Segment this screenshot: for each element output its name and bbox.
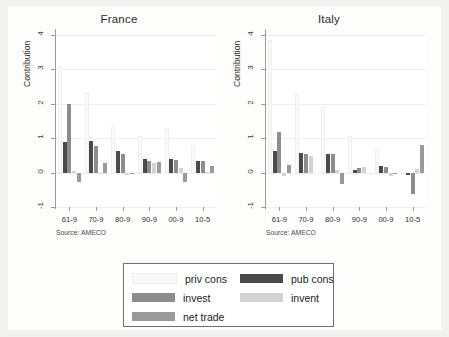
legend-label: pub cons [291,273,334,285]
x-axis-tick [359,207,360,211]
y-axis-tick-label: 3 [246,60,255,76]
legend-grid: priv consinvestnet tradepub consinvent [130,269,327,321]
bar-priv-cons-70-9 [85,92,89,173]
y-gridline [266,138,426,139]
bar-priv-cons-70-9 [295,94,299,172]
x-axis-tick [69,207,70,211]
bar-invest-61-9 [277,132,281,173]
bar-invest-10-5 [201,161,205,173]
y-gridline [56,138,216,139]
bar-invent-10-5 [205,172,209,173]
legend-label: invent [291,292,319,304]
y-axis-tick [51,207,55,208]
y-axis-tick [51,35,55,36]
plot-background [266,35,426,207]
x-axis-tick [149,207,150,211]
panel-title-italy: Italy [224,13,434,25]
y-axis-tick-label: 2 [36,94,45,110]
bar-pub-cons-70-9 [299,153,303,173]
x-axis-tick-label: 10-5 [396,215,430,224]
bar-priv-cons-10-5 [191,146,195,172]
bar-pub-cons-70-9 [89,141,93,173]
bar-invent-80-9 [125,173,129,175]
x-axis-tick [306,207,307,211]
y-axis-tick [261,138,265,139]
bar-priv-cons-80-9 [321,107,325,173]
panel-title-france: France [14,13,224,25]
bar-net-trade-00-9 [393,173,397,174]
y-axis-tick-label: 4 [246,26,255,42]
bar-pub-cons-61-9 [63,142,67,172]
bar-invent-61-9 [72,171,76,172]
x-axis-tick [279,207,280,211]
legend-swatch-icon [132,312,175,321]
bar-invest-90-9 [357,168,361,172]
bar-invest-00-9 [384,167,388,173]
bar-invent-10-5 [415,169,419,173]
bar-priv-cons-90-9 [348,136,352,172]
legend-label: invest [183,292,210,304]
legend-item-pub-cons: pub cons [240,271,334,286]
y-gridline [266,35,426,36]
bar-priv-cons-10-5 [401,172,405,174]
legend-item-priv-cons: priv cons [132,271,227,286]
y-gridline [56,104,216,105]
y-axis-tick-label: 0 [246,163,255,179]
bar-pub-cons-90-9 [353,170,357,173]
bar-invest-70-9 [94,146,98,172]
x-axis-tick-label: 10-5 [186,215,220,224]
bar-net-trade-61-9 [287,165,291,172]
source-note-france: Source: AMECO [56,229,106,236]
panel-italy: Italy Contribution 43210-161-970-980-990… [224,7,434,252]
y-axis-tick [261,207,265,208]
bar-net-trade-80-9 [130,173,134,175]
bar-pub-cons-90-9 [143,159,147,172]
bar-invent-70-9 [309,156,313,172]
y-gridline [266,104,426,105]
panel-france: France Contribution 43210-161-970-980-99… [14,7,224,252]
bar-pub-cons-00-9 [169,159,173,173]
y-axis-label-italy: Contribution [232,41,242,87]
y-axis-tick-label: -1 [36,198,45,214]
x-axis-tick [176,207,177,211]
panels-container: France Contribution 43210-161-970-980-99… [8,7,441,252]
bar-net-trade-00-9 [183,173,187,182]
bar-pub-cons-00-9 [379,166,383,172]
y-axis-tick [261,104,265,105]
bar-invest-61-9 [67,104,71,172]
bar-pub-cons-10-5 [406,173,410,175]
source-note-italy: Source: AMECO [266,229,316,236]
x-axis-tick [413,207,414,211]
bar-invest-80-9 [121,154,125,173]
bar-priv-cons-00-9 [165,128,169,173]
y-axis-tick [51,138,55,139]
bar-net-trade-90-9 [157,162,161,173]
y-axis-line [55,29,56,209]
bar-invent-90-9 [362,167,366,172]
chart-legend: priv consinvestnet tradepub consinvent [123,263,334,327]
bar-invest-10-5 [411,173,415,194]
bar-net-trade-10-5 [210,166,214,172]
bar-invest-70-9 [304,154,308,173]
legend-item-invest: invest [132,290,210,305]
bar-net-trade-61-9 [77,173,81,182]
bar-pub-cons-80-9 [326,154,330,172]
y-axis-tick-label: 1 [36,129,45,145]
bar-priv-cons-61-9 [268,40,272,172]
bar-priv-cons-00-9 [375,149,379,173]
bar-net-trade-10-5 [420,145,424,172]
x-axis-tick [96,207,97,211]
y-axis-tick [51,69,55,70]
bar-invent-61-9 [282,173,286,176]
bar-invent-70-9 [99,173,103,174]
y-axis-tick [261,69,265,70]
y-axis-tick [261,35,265,36]
chart-figure: France Contribution 43210-161-970-980-99… [0,0,449,337]
plot-area-italy: 43210-161-970-980-990-900-910-5 [266,35,426,207]
legend-swatch-icon [132,273,177,284]
bar-net-trade-70-9 [103,163,107,173]
y-gridline [56,69,216,70]
plot-canvas: France Contribution 43210-161-970-980-99… [8,7,441,330]
x-axis-tick [203,207,204,211]
y-axis-label-france: Contribution [22,41,32,87]
